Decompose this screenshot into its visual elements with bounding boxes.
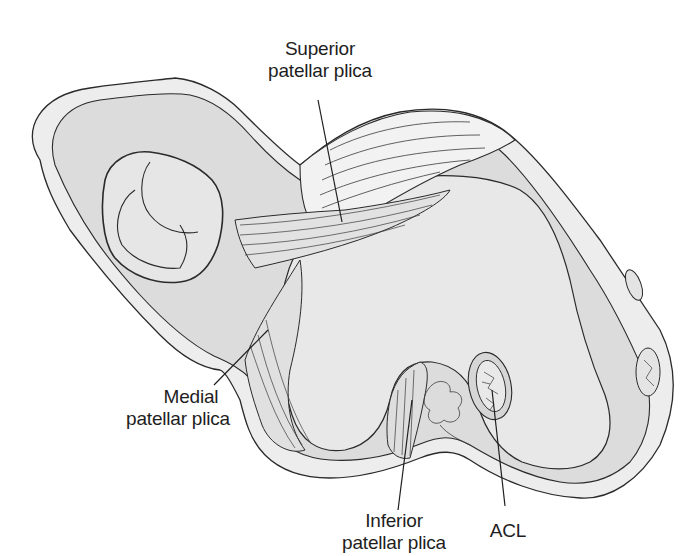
label-inferior-line1: Inferior — [330, 510, 458, 532]
label-superior-line1: Superior — [255, 38, 385, 60]
label-superior-line2: patellar plica — [255, 60, 385, 82]
label-superior-patellar-plica: Superior patellar plica — [255, 38, 385, 82]
label-acl: ACL — [486, 520, 530, 542]
knee-cross-section-illustration — [0, 0, 682, 556]
popliteal-structure — [636, 348, 660, 396]
label-acl-text: ACL — [486, 520, 530, 542]
label-inferior-line2: patellar plica — [330, 532, 458, 554]
label-medial-line2: patellar plica — [116, 408, 240, 430]
label-inferior-patellar-plica: Inferior patellar plica — [330, 510, 458, 554]
label-medial-line1: Medial — [116, 386, 240, 408]
knee-plica-diagram: Superior patellar plica Medial patellar … — [0, 0, 682, 556]
label-medial-patellar-plica: Medial patellar plica — [116, 386, 240, 430]
